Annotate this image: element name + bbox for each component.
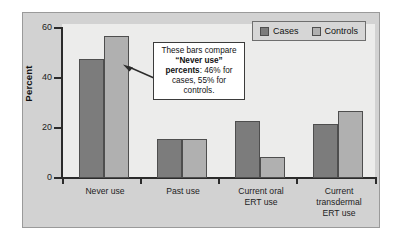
x-category-label-current-oral-ert-use: Current oral ERT use xyxy=(218,186,304,208)
bar-never-use-cases xyxy=(79,59,104,178)
y-tick-label-60-wrap: 60 xyxy=(20,23,52,33)
y-tick-20 xyxy=(54,127,62,129)
x-tick-0 xyxy=(62,178,64,184)
legend-item-cases[interactable]: Cases xyxy=(260,26,299,36)
x-category-line: Current xyxy=(296,186,382,197)
bar-current-oral-ert-cases xyxy=(235,121,260,178)
y-tick-label-40: 40 xyxy=(24,73,52,82)
y-tick-60 xyxy=(54,27,62,29)
y-tick-label-0-wrap: 0 xyxy=(20,173,52,183)
y-tick-label-20: 20 xyxy=(24,123,52,132)
bar-chart-figure: Percent 60 40 20 0 Never use Past use Cu… xyxy=(0,0,407,242)
x-category-line: Never use xyxy=(62,186,148,197)
x-category-line: transdermal xyxy=(296,197,382,208)
x-category-line: Past use xyxy=(140,186,226,197)
y-tick-label-40-wrap: 40 xyxy=(20,73,52,83)
callout-arrow-icon xyxy=(120,62,156,80)
legend-swatch-controls-icon xyxy=(312,27,321,36)
x-category-label-never-use: Never use xyxy=(62,186,148,197)
legend-swatch-cases-icon xyxy=(260,27,269,36)
x-category-label-current-transdermal-ert-use: Current transdermal ERT use xyxy=(296,186,382,219)
bar-current-oral-ert-controls xyxy=(260,157,285,178)
x-tick-1 xyxy=(140,178,142,184)
x-tick-4 xyxy=(375,178,377,184)
legend-label-cases: Cases xyxy=(273,26,299,36)
bar-never-use-controls xyxy=(104,36,129,178)
y-tick-40 xyxy=(54,77,62,79)
y-axis-line xyxy=(61,27,63,179)
bar-past-use-controls xyxy=(182,139,207,178)
y-tick-label-0: 0 xyxy=(24,173,52,182)
bar-current-transdermal-ert-cases xyxy=(313,124,338,178)
legend-label-controls: Controls xyxy=(325,26,359,36)
y-tick-label-20-wrap: 20 xyxy=(20,123,52,133)
callout-text-segment-1: These bars compare xyxy=(161,46,236,55)
x-category-line: ERT use xyxy=(296,208,382,219)
never-use-callout: These bars compare “Never use” percents:… xyxy=(153,42,245,100)
bar-past-use-cases xyxy=(157,139,182,178)
y-tick-0 xyxy=(54,177,62,179)
bar-current-transdermal-ert-controls xyxy=(338,111,363,178)
x-category-line: ERT use xyxy=(218,197,304,208)
y-axis-title: Percent xyxy=(23,54,34,114)
x-tick-3 xyxy=(296,178,298,184)
x-category-label-past-use: Past use xyxy=(140,186,226,197)
y-tick-label-60: 60 xyxy=(24,23,52,32)
x-category-line: Current oral xyxy=(218,186,304,197)
chart-legend[interactable]: Cases Controls xyxy=(252,21,366,41)
legend-item-controls[interactable]: Controls xyxy=(312,26,359,36)
x-tick-2 xyxy=(218,178,220,184)
